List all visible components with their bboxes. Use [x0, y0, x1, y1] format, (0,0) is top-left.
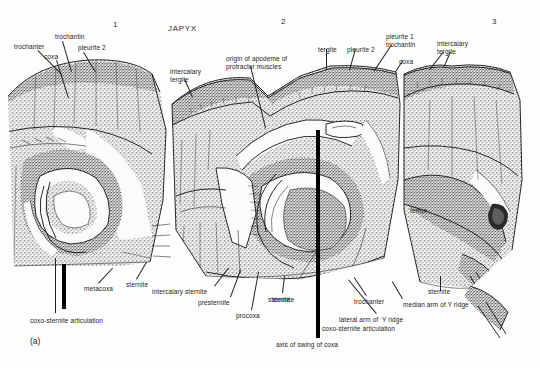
segment-numeral-2: 2	[281, 17, 285, 26]
anatomy-label: protractor muscles	[226, 63, 281, 71]
leader-line	[55, 258, 56, 313]
segment-1-group	[6, 58, 171, 266]
anatomy-label: median arm of Y ridge	[403, 301, 469, 309]
anatomy-label: coxo-sternite articulation	[30, 317, 103, 325]
anatomy-label: intercalary	[170, 68, 201, 76]
anatomy-label: coxa	[399, 58, 413, 66]
anatomy-label: intercalary sternite	[152, 288, 207, 296]
anatomy-label: sternite	[272, 296, 294, 304]
axis-of-swing-of-coxa-marker-center	[316, 130, 320, 338]
segment-2-group	[170, 66, 400, 280]
anatomy-label: sternite	[428, 288, 450, 296]
anatomy-label: intercalary	[437, 40, 468, 48]
anatomy-label: pleurite 2	[347, 46, 375, 54]
anatomy-label: pleurite 1	[386, 33, 414, 41]
anatomy-label: origin of apodeme of	[226, 55, 287, 63]
anatomy-label: tergite	[437, 48, 456, 56]
anatomy-label: tergite	[318, 46, 337, 54]
anatomy-label: trochanter	[14, 43, 44, 51]
figure-page: trochantertrochantincoxapleurite 2interc…	[0, 0, 540, 367]
anatomy-label: presternite	[198, 299, 230, 307]
anatomy-label: trochantin	[386, 41, 416, 49]
anatomy-label: tergite	[170, 76, 189, 84]
coxo-sternite-articulation-marker-left	[62, 264, 66, 309]
figure-title: JAPYX	[168, 24, 197, 33]
anatomy-label: trochantin	[55, 33, 85, 41]
anatomy-label: coxa	[44, 53, 58, 61]
anatomy-label: femur	[410, 207, 427, 215]
segment-numeral-3: 3	[492, 17, 496, 26]
anatomy-label: metacoxa	[84, 285, 113, 293]
anatomy-label: lateral arm of Y ridge	[339, 316, 403, 324]
anatomy-label: sternite	[126, 281, 148, 289]
anatomy-label: axis of swing of coxa	[276, 341, 338, 349]
figure-caption: (a)	[30, 336, 40, 346]
segment-numeral-1: 1	[113, 20, 117, 29]
anatomy-label: procoxa	[236, 312, 260, 320]
anatomy-label: trochanter	[354, 298, 384, 306]
segment-3-group	[402, 65, 522, 338]
anatomy-label: pleurite 2	[78, 44, 106, 52]
anatomy-label: coxo-sternite articulation	[322, 325, 395, 333]
